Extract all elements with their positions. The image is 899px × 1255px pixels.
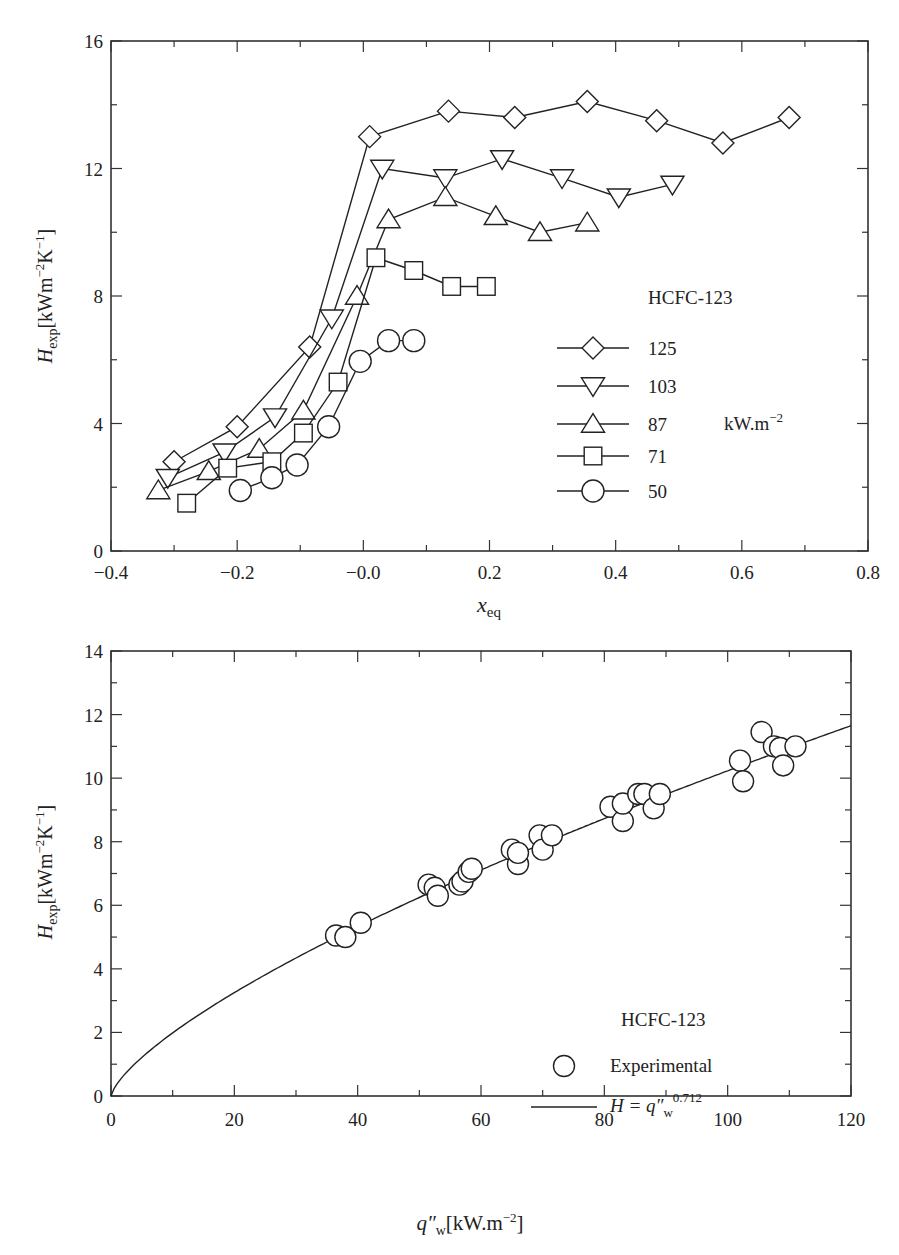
circle-marker-icon <box>403 330 425 352</box>
triangle-down-marker-icon <box>263 409 286 428</box>
triangle-up-marker-icon <box>377 209 400 228</box>
x-tick-label: −0.0 <box>346 562 380 583</box>
triangle-down-marker-icon <box>607 189 630 208</box>
square-marker-icon <box>478 278 496 296</box>
triangle-up-marker-icon <box>484 206 507 225</box>
y-tick-label: 10 <box>84 768 103 789</box>
legend-triangle-down-icon <box>581 378 604 397</box>
circle-marker-icon <box>286 454 308 476</box>
legend-triangle-up-icon <box>581 414 604 433</box>
bottom-x-axis-label: q″w[kW.m−2] <box>416 1210 523 1238</box>
x-tick-label: 40 <box>348 1109 367 1130</box>
bottom-y-axis-label: Hexp[kWm−2K−1] <box>32 805 60 941</box>
legend-label: 87 <box>648 414 667 435</box>
y-tick-label: 14 <box>84 641 104 662</box>
y-tick-label: 12 <box>84 705 103 726</box>
legend-circle-icon <box>582 480 604 502</box>
top-x-tick-labels: −0.4−0.2−0.00.20.40.60.8 <box>94 562 880 583</box>
y-tick-label: 0 <box>94 1086 104 1107</box>
figure: −0.4−0.2−0.00.20.40.60.8 0481216 xeq Hex… <box>0 0 899 1255</box>
triangle-down-marker-icon <box>491 151 514 170</box>
series-103 <box>156 151 684 488</box>
y-tick-label: 6 <box>94 895 104 916</box>
square-marker-icon <box>295 424 313 442</box>
triangle-down-marker-icon <box>550 170 573 189</box>
circle-marker-icon <box>229 479 251 501</box>
y-tick-label: 12 <box>84 159 103 180</box>
bottom-y-tick-labels: 02468101214 <box>84 641 104 1107</box>
diamond-marker-icon <box>778 107 800 129</box>
x-tick-label: 0.8 <box>856 562 880 583</box>
y-tick-label: 16 <box>84 31 103 52</box>
bottom-legend-marker-label: Experimental <box>610 1055 712 1076</box>
triangle-up-marker-icon <box>292 400 315 419</box>
x-tick-label: 0.6 <box>730 562 754 583</box>
diamond-marker-icon <box>646 110 668 132</box>
bottom-legend-line-label: H = q″w0.712 <box>609 1090 702 1120</box>
experimental-circle-marker-icon <box>427 885 448 906</box>
y-tick-label: 4 <box>94 959 104 980</box>
top-chart: −0.4−0.2−0.00.20.40.60.8 0481216 xeq Hex… <box>32 31 880 620</box>
top-legend: HCFC-123 125103877150 kW.m−2 <box>557 287 783 502</box>
experimental-circle-marker-icon <box>730 750 751 771</box>
triangle-down-marker-icon <box>661 176 684 195</box>
x-tick-label: 0.4 <box>604 562 628 583</box>
diamond-marker-icon <box>359 126 381 148</box>
experimental-circle-marker-icon <box>733 771 754 792</box>
diamond-marker-icon <box>576 91 598 113</box>
legend-item-71: 71 <box>557 446 667 467</box>
y-tick-label: 0 <box>94 541 104 562</box>
experimental-circle-marker-icon <box>508 842 529 863</box>
triangle-down-marker-icon <box>320 310 343 329</box>
legend-label: 50 <box>648 481 667 502</box>
legend-circle-marker-icon <box>554 1056 575 1077</box>
top-legend-title: HCFC-123 <box>648 287 732 308</box>
circle-marker-icon <box>349 350 371 372</box>
legend-label: 125 <box>648 338 677 359</box>
x-tick-label: 60 <box>472 1109 491 1130</box>
x-tick-label: 20 <box>225 1109 244 1130</box>
y-tick-label: 8 <box>94 832 104 853</box>
triangle-up-marker-icon <box>576 212 599 231</box>
x-tick-label: 120 <box>837 1109 866 1130</box>
experimental-circle-marker-icon <box>649 784 670 805</box>
square-marker-icon <box>443 278 461 296</box>
x-tick-label: 0 <box>106 1109 116 1130</box>
square-marker-icon <box>329 373 347 391</box>
series-71 <box>178 249 495 512</box>
diamond-marker-icon <box>504 107 526 129</box>
experimental-circle-marker-icon <box>773 755 794 776</box>
circle-marker-icon <box>261 467 283 489</box>
diamond-marker-icon <box>712 132 734 154</box>
experimental-circle-marker-icon <box>785 736 806 757</box>
x-tick-label: −0.2 <box>220 562 254 583</box>
x-tick-label: 100 <box>713 1109 742 1130</box>
bottom-chart: 020406080100120 02468101214 q″w[kW.m−2] … <box>32 641 865 1238</box>
top-x-axis-label: xeq <box>476 592 501 620</box>
legend-square-icon <box>584 447 602 465</box>
diamond-marker-icon <box>437 100 459 122</box>
y-tick-label: 4 <box>94 414 104 435</box>
y-tick-label: 2 <box>94 1022 104 1043</box>
experimental-circle-marker-icon <box>461 858 482 879</box>
experimental-circle-marker-icon <box>350 912 371 933</box>
legend-item-125: 125 <box>557 337 677 359</box>
square-marker-icon <box>219 459 237 477</box>
y-tick-label: 8 <box>94 286 104 307</box>
x-tick-label: 0.2 <box>478 562 502 583</box>
top-legend-unit: kW.m−2 <box>724 410 783 434</box>
legend-item-87: 87 <box>557 414 667 435</box>
legend-diamond-icon <box>582 337 604 359</box>
square-marker-icon <box>178 494 196 512</box>
top-y-tick-labels: 0481216 <box>84 31 104 562</box>
circle-marker-icon <box>318 416 340 438</box>
legend-label: 71 <box>648 446 667 467</box>
legend-item-103: 103 <box>557 376 677 397</box>
legend-item-50: 50 <box>557 480 667 502</box>
legend-label: 103 <box>648 376 677 397</box>
circle-marker-icon <box>378 330 400 352</box>
square-marker-icon <box>367 249 385 267</box>
series-87 <box>147 187 599 499</box>
top-y-axis-label: Hexp[kWm−2K−1] <box>32 229 60 365</box>
bottom-legend-title: HCFC-123 <box>621 1009 705 1030</box>
